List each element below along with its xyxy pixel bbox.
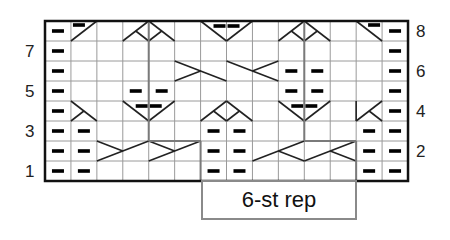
purl-symbol xyxy=(389,109,401,113)
cable-line xyxy=(227,111,240,121)
cable-line xyxy=(97,141,123,151)
purl-symbol xyxy=(52,109,64,113)
purl-symbol xyxy=(228,24,240,28)
cable-line xyxy=(123,101,149,121)
purl-symbol xyxy=(52,129,64,133)
cable-line xyxy=(330,151,356,161)
purl-symbol xyxy=(150,104,162,108)
purl-symbol xyxy=(291,104,303,108)
purl-symbol xyxy=(389,29,401,33)
purl-symbol xyxy=(233,129,245,133)
purl-symbol xyxy=(208,129,220,133)
purl-symbol xyxy=(389,129,401,133)
cable-line xyxy=(149,101,175,121)
cable-line xyxy=(201,21,227,41)
purl-symbol xyxy=(52,149,64,153)
cable-line xyxy=(149,141,175,151)
purl-symbol xyxy=(136,104,148,108)
purl-symbol xyxy=(389,149,401,153)
purl-symbol xyxy=(52,69,64,73)
cable-line xyxy=(227,21,253,41)
purl-symbol xyxy=(363,169,375,173)
purl-symbol xyxy=(285,69,297,73)
cable-line xyxy=(304,31,317,41)
purl-symbol xyxy=(52,89,64,93)
purl-symbol xyxy=(363,129,375,133)
purl-symbol xyxy=(208,169,220,173)
row-label-2: 2 xyxy=(416,143,425,160)
row-label-5: 5 xyxy=(25,83,34,100)
row-label-3: 3 xyxy=(25,123,34,140)
cable-line xyxy=(278,101,304,121)
purl-symbol xyxy=(305,104,317,108)
row-label-7: 7 xyxy=(25,43,34,60)
purl-symbol xyxy=(52,169,64,173)
cable-line xyxy=(252,61,278,71)
cable-line xyxy=(291,31,304,41)
purl-symbol xyxy=(389,49,401,53)
purl-symbol xyxy=(130,89,142,93)
purl-symbol xyxy=(52,49,64,53)
purl-symbol xyxy=(389,69,401,73)
purl-symbol xyxy=(78,169,90,173)
purl-symbol xyxy=(285,89,297,93)
purl-symbol xyxy=(368,23,380,27)
row-label-8: 8 xyxy=(416,23,425,40)
purl-symbol xyxy=(156,89,168,93)
cable-line xyxy=(71,111,84,121)
row-label-6: 6 xyxy=(416,63,425,80)
purl-symbol xyxy=(363,149,375,153)
purl-symbol xyxy=(52,29,64,33)
purl-symbol xyxy=(233,169,245,173)
purl-symbol xyxy=(208,149,220,153)
purl-symbol xyxy=(311,89,323,93)
cable-line xyxy=(304,101,330,121)
cable-line xyxy=(214,111,227,121)
cable-line xyxy=(175,71,201,81)
cable-line xyxy=(278,151,304,161)
purl-symbol xyxy=(73,23,85,27)
row-label-4: 4 xyxy=(416,103,425,120)
purl-symbol xyxy=(233,149,245,153)
purl-symbol xyxy=(78,149,90,153)
purl-symbol xyxy=(214,24,226,28)
purl-symbol xyxy=(389,169,401,173)
cable-line xyxy=(369,111,382,121)
purl-symbol xyxy=(389,89,401,93)
purl-symbol xyxy=(78,129,90,133)
row-label-1: 1 xyxy=(25,163,34,180)
cable-line xyxy=(136,31,149,41)
repeat-label: 6-st rep xyxy=(242,187,317,213)
repeat-label-box: 6-st rep xyxy=(201,180,357,220)
cable-line xyxy=(149,31,162,41)
purl-symbol xyxy=(311,69,323,73)
